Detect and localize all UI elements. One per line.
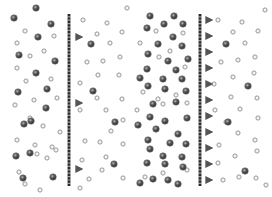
solute-particle	[43, 105, 50, 112]
solute-particle	[160, 76, 167, 83]
solvent-particle	[15, 66, 19, 70]
solvent-particle	[231, 75, 235, 79]
solvent-particle	[109, 129, 113, 133]
solvent-particle	[161, 102, 165, 106]
solvent-particle	[243, 41, 247, 45]
solute-particle	[173, 67, 180, 74]
solute-particle	[48, 21, 55, 28]
solute-particle	[150, 101, 157, 108]
solvent-particle	[42, 49, 46, 53]
solvent-particle	[141, 90, 145, 94]
solvent-particle	[156, 97, 160, 101]
solute-particle	[11, 15, 18, 22]
solvent-particle	[85, 60, 89, 64]
solvent-particle	[41, 124, 45, 128]
solvent-particle	[174, 93, 178, 97]
solvent-particle	[238, 107, 242, 111]
solvent-particle	[121, 176, 125, 180]
solute-particle	[175, 181, 182, 188]
solvent-particle	[254, 176, 258, 180]
solvent-particle	[219, 60, 223, 64]
solvent-particle	[13, 103, 17, 107]
solute-particle	[147, 13, 154, 20]
solute-particle	[147, 146, 154, 153]
solute-particle	[173, 99, 180, 106]
solvent-particle	[121, 142, 125, 146]
solute-particle	[184, 115, 191, 122]
solvent-particle	[33, 143, 37, 147]
solvent-particle	[78, 81, 82, 85]
solvent-particle	[38, 188, 42, 192]
solvent-particle	[256, 29, 260, 33]
solvent-particle	[95, 96, 99, 100]
solvent-particle	[157, 55, 161, 59]
solvent-particle	[236, 131, 240, 135]
solvent-particle	[237, 175, 241, 179]
right-panel-concentrated	[135, 8, 268, 187]
solvent-particle	[216, 18, 220, 22]
solvent-particle	[55, 96, 59, 100]
solvent-particle	[95, 32, 99, 36]
solvent-particle	[96, 73, 100, 77]
solvent-particle	[264, 183, 268, 187]
solvent-particle	[231, 30, 235, 34]
solute-particle	[28, 118, 35, 125]
solute-particle	[135, 122, 142, 129]
solvent-particle	[213, 108, 217, 112]
solute-particle	[144, 160, 151, 167]
solvent-particle	[183, 65, 187, 69]
solute-particle	[161, 21, 168, 28]
solute-particle	[144, 25, 151, 32]
solvent-particle	[236, 58, 240, 62]
solvent-particle	[253, 55, 257, 59]
solvent-particle	[143, 175, 147, 179]
solute-particle	[147, 114, 154, 121]
solute-particle	[33, 5, 40, 12]
solvent-particle	[168, 49, 172, 53]
solvent-particle	[81, 18, 85, 22]
solute-particle	[16, 52, 23, 59]
solvent-particle	[28, 54, 32, 58]
solvent-particle	[255, 96, 259, 100]
solvent-particle	[49, 77, 53, 81]
solvent-particle	[118, 55, 122, 59]
solute-particle	[13, 153, 20, 160]
solvent-particle	[154, 29, 158, 33]
solute-particle	[50, 174, 57, 181]
solute-particle	[35, 34, 42, 41]
solute-particle	[180, 164, 187, 171]
solute-particle	[160, 153, 167, 160]
solute-particle	[88, 41, 95, 48]
solvent-particle	[23, 182, 27, 186]
solute-particle	[52, 58, 59, 65]
solvent-particle	[80, 158, 84, 162]
solute-particle	[242, 168, 249, 175]
solute-particle	[144, 66, 151, 73]
solute-particle	[111, 161, 118, 168]
solvent-particle	[240, 20, 244, 24]
solute-particle	[170, 34, 177, 41]
solvent-particle	[58, 130, 62, 134]
solvent-particle	[252, 71, 256, 75]
solvent-particle	[15, 41, 19, 45]
solute-particle	[180, 21, 187, 28]
solvent-particle	[50, 145, 54, 149]
solvent-particle	[108, 41, 112, 45]
solute-particle	[145, 51, 152, 58]
solvent-particle	[35, 152, 39, 156]
solvent-particle	[216, 161, 220, 165]
solvent-particle	[23, 29, 27, 33]
solute-particle	[150, 176, 157, 183]
solute-particle	[165, 58, 172, 65]
solvent-particle	[15, 138, 19, 142]
solvent-particle	[104, 108, 108, 112]
solvent-particle	[125, 6, 129, 10]
solvent-particle	[104, 155, 108, 159]
solute-particle	[20, 175, 27, 182]
solute-particle	[112, 119, 119, 126]
solute-particle	[21, 121, 28, 128]
solute-particle	[179, 154, 186, 161]
solute-particle	[245, 83, 252, 90]
solute-particle	[153, 126, 160, 133]
solute-particle	[137, 75, 144, 82]
